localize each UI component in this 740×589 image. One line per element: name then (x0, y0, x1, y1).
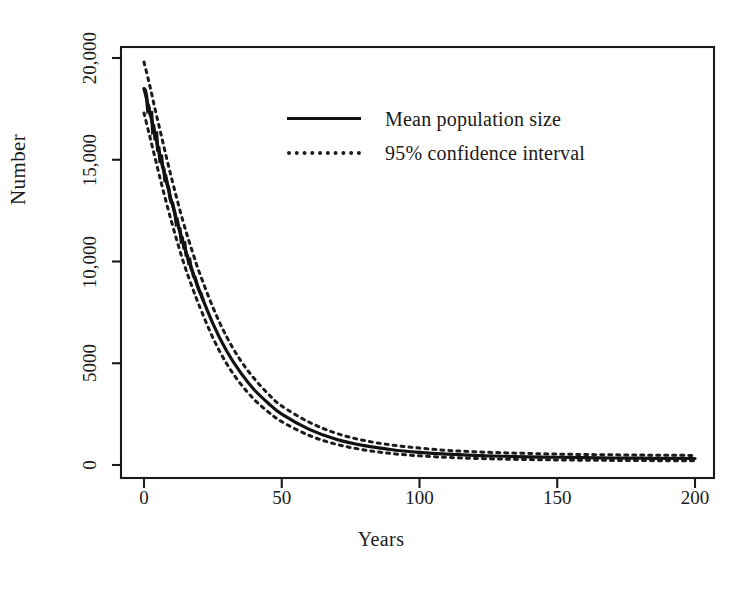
x-tick-label: 200 (655, 487, 735, 509)
x-axis-label-text: Years (358, 528, 405, 551)
dotted-line-sample (287, 151, 361, 155)
figure-population-decline: Number Years 0500010,00015,00020,000 050… (0, 0, 740, 589)
x-tick-label: 100 (380, 487, 460, 509)
legend-label-mean: Mean population size (385, 104, 561, 134)
solid-line-sample (287, 117, 361, 120)
x-axis-label: Years (0, 528, 740, 551)
y-tick-label: 15,000 (79, 105, 101, 215)
legend-item-mean: Mean population size (287, 104, 617, 138)
series-noise-overlay (144, 89, 204, 301)
y-axis-label: Number (6, 85, 31, 205)
y-tick-label: 10,000 (79, 207, 101, 317)
x-tick-label: 50 (242, 487, 322, 509)
y-tick-label: 0 (79, 410, 101, 520)
legend-label-confidence-interval: 95% confidence interval (385, 138, 585, 168)
x-tick-label: 0 (104, 487, 184, 509)
x-tick-label: 150 (517, 487, 597, 509)
legend: Mean population size 95% confidence inte… (287, 104, 617, 172)
y-tick-label: 5000 (79, 308, 101, 418)
legend-item-confidence-interval: 95% confidence interval (287, 138, 617, 172)
y-tick-label: 20,000 (79, 3, 101, 113)
